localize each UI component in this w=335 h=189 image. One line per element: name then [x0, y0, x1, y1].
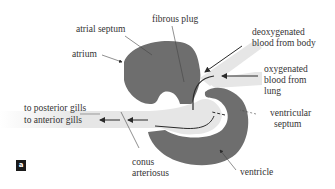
label-atrial-septum: atrial septum: [76, 24, 125, 35]
label-ventricular-septum-1: ventricular: [270, 108, 311, 119]
label-atrium: atrium: [72, 49, 97, 60]
label-conus-1: conus: [132, 157, 154, 168]
label-oxygenated-3: lung: [264, 86, 281, 97]
atrium-shape: [124, 41, 200, 104]
label-oxygenated-1: oxygenated: [264, 64, 308, 75]
label-conus-2: arteriosus: [132, 168, 169, 179]
label-to-posterior-gills: to posterior gills: [24, 103, 86, 114]
label-fibrous-plug: fibrous plug: [152, 14, 198, 25]
label-ventricular-septum-2: septum: [274, 119, 301, 130]
label-ventricle: ventricle: [240, 167, 273, 178]
label-oxygenated-2: blood from: [264, 75, 306, 86]
label-deoxygenated-2: blood from body: [252, 38, 316, 49]
label-to-anterior-gills: to anterior gills: [24, 115, 82, 126]
label-deoxygenated-1: deoxygenated: [252, 27, 305, 38]
panel-label-badge: a: [16, 160, 26, 171]
